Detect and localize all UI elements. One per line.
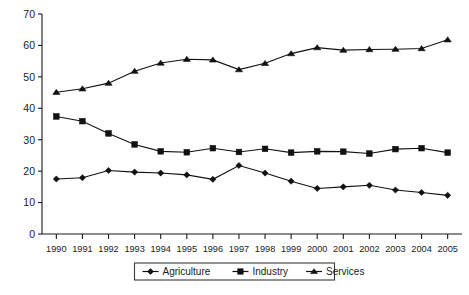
x-axis-tick-label: 1997 <box>229 244 249 254</box>
x-axis-tick-label: 1993 <box>124 244 144 254</box>
data-point <box>132 169 138 175</box>
data-point <box>393 146 399 152</box>
x-axis-tick-label: 2004 <box>411 244 431 254</box>
data-point <box>340 184 346 190</box>
data-point <box>341 149 347 155</box>
data-point <box>288 178 294 184</box>
x-axis-tick-label: 2005 <box>437 244 457 254</box>
data-point <box>210 176 216 182</box>
y-axis-tick-label: 30 <box>23 134 35 146</box>
series-layer <box>53 37 452 199</box>
data-point <box>314 149 320 155</box>
data-point <box>54 114 60 120</box>
x-axis-tick-label: 1990 <box>46 244 66 254</box>
y-axis-tick-label: 20 <box>23 165 35 177</box>
data-point <box>418 189 424 195</box>
data-point <box>105 167 111 173</box>
line-chart-plot: 010203040506070 199019911992199319941995… <box>0 0 469 295</box>
series-line <box>56 116 447 153</box>
data-point <box>53 176 59 182</box>
data-point <box>392 187 398 193</box>
x-axis-tick-label: 2001 <box>333 244 353 254</box>
x-axis-tick-label: 1996 <box>203 244 223 254</box>
data-point <box>314 185 320 191</box>
y-axis-tick-label: 40 <box>23 102 35 114</box>
data-point <box>210 145 216 151</box>
data-point <box>106 131 112 137</box>
data-point <box>367 151 373 157</box>
x-axis-tick-label: 1992 <box>98 244 118 254</box>
x-axis-tick-label: 1991 <box>72 244 92 254</box>
series-line <box>56 40 447 92</box>
legend-marker-square <box>238 269 243 274</box>
y-axis-tick-label: 50 <box>23 71 35 83</box>
x-axis-tick-label: 2000 <box>307 244 327 254</box>
x-axis-tick-label: 1998 <box>255 244 275 254</box>
x-axis-tick-label: 1999 <box>281 244 301 254</box>
series-agriculture <box>53 162 451 198</box>
data-point <box>419 145 425 151</box>
x-axis-tick-label: 1994 <box>150 244 170 254</box>
series-line <box>56 165 447 195</box>
data-point <box>445 192 451 198</box>
x-axis-tick-label: 1995 <box>177 244 197 254</box>
data-point <box>132 142 138 148</box>
y-axis-tick-label: 10 <box>23 196 35 208</box>
series-industry <box>54 114 451 157</box>
data-point <box>158 170 164 176</box>
chart-container: 010203040506070 199019911992199319941995… <box>0 0 469 295</box>
data-point <box>105 80 112 85</box>
data-point <box>366 182 372 188</box>
data-point <box>184 149 190 155</box>
legend-label: Services <box>326 266 364 277</box>
data-point <box>79 175 85 181</box>
data-point <box>445 150 451 156</box>
x-axis: 1990199119921993199419951996199719981999… <box>42 234 462 254</box>
y-axis: 010203040506070 <box>23 8 42 240</box>
data-point <box>262 146 268 152</box>
data-point <box>158 149 164 155</box>
series-services <box>53 37 452 95</box>
chart-legend: AgricultureIndustryServices <box>135 263 365 280</box>
data-point <box>184 172 190 178</box>
legend-label: Industry <box>252 266 288 277</box>
y-axis-tick-label: 70 <box>23 8 35 20</box>
y-axis-tick-label: 0 <box>29 228 35 240</box>
x-axis-tick-label: 2003 <box>385 244 405 254</box>
data-point <box>288 150 294 156</box>
x-axis-tick-label: 2002 <box>359 244 379 254</box>
data-point <box>80 118 86 124</box>
data-point <box>262 170 268 176</box>
data-point <box>236 149 242 155</box>
y-axis-tick-label: 60 <box>23 39 35 51</box>
data-point <box>444 37 451 42</box>
data-point <box>236 162 242 168</box>
data-point <box>314 45 321 50</box>
legend-label: Agriculture <box>163 266 211 277</box>
